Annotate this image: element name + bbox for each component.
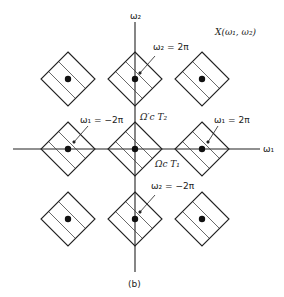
annotation-w1-pos: ω₁ = 2π — [214, 115, 250, 125]
annotation-w2-pos: ω₂ = 2π — [153, 42, 189, 52]
annotation-omega-t1: Ωc T₁ — [154, 159, 180, 169]
annotation-omega-t2: Ω′c T₂ — [139, 112, 167, 122]
annotation-w1-neg: ω₁ = −2π — [80, 115, 124, 125]
figure-caption: (b) — [128, 279, 141, 289]
omega1-axis-label: ω₁ — [263, 144, 275, 154]
annotation-w2-neg: ω₂ = −2π — [151, 181, 195, 191]
spectrum-diagram: ω₂ ω₁ X(ω₁, ω₂) ω₂ = 2π ω₁ = −2π ω₁ = 2π… — [0, 0, 284, 297]
figure-title: X(ω₁, ω₂) — [214, 27, 257, 37]
omega2-axis-label: ω₂ — [130, 11, 142, 21]
